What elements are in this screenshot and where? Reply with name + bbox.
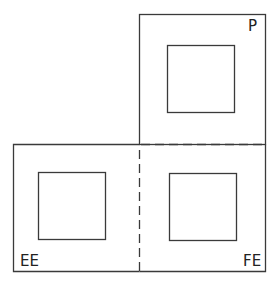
region-fe-label: FE (243, 252, 261, 270)
region-p-outer (140, 15, 266, 145)
region-ee-label: EE (20, 252, 39, 270)
region-diagram: P EE FE (0, 0, 280, 284)
region-p-inner-square (168, 46, 235, 113)
region-p-label: P (248, 17, 257, 35)
region-ee-inner-square (39, 173, 106, 240)
region-fe-inner-square (170, 174, 237, 241)
